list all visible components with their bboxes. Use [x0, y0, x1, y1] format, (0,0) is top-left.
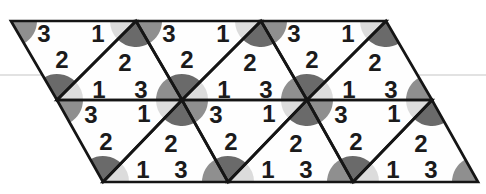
angle-2-label: 2 [55, 46, 68, 73]
angle-2-label: 2 [289, 130, 302, 157]
angle-2-label: 2 [414, 130, 427, 157]
angle-2-label: 2 [368, 49, 381, 76]
angle-2-label: 2 [118, 49, 131, 76]
triangle-tessellation-figure: 312312312213213213312312312213213213 [0, 0, 486, 194]
angle-3-label: 3 [334, 101, 347, 128]
angle-1-label: 1 [216, 20, 229, 47]
angle-1-label: 1 [136, 156, 149, 183]
angle-3-label: 3 [134, 76, 147, 103]
angle-2-label: 2 [180, 46, 193, 73]
angle-2-label: 2 [349, 128, 362, 155]
angle-1-label: 1 [387, 100, 400, 127]
angle-2-label: 2 [99, 128, 112, 155]
angle-2-label: 2 [164, 130, 177, 157]
angle-3-label: 3 [424, 156, 437, 183]
angle-3-label: 3 [174, 156, 187, 183]
angle-1-label: 1 [341, 20, 354, 47]
angle-2-label: 2 [224, 128, 237, 155]
angle-3-label: 3 [84, 101, 97, 128]
figure-svg: 312312312213213213312312312213213213 [0, 0, 486, 194]
angle-2-label: 2 [243, 49, 256, 76]
angle-3-label: 3 [259, 76, 272, 103]
angle-3-label: 3 [299, 156, 312, 183]
angle-1-label: 1 [92, 76, 105, 103]
angle-1-label: 1 [262, 100, 275, 127]
angle-3-label: 3 [209, 101, 222, 128]
angle-1-label: 1 [91, 20, 104, 47]
angle-3-label: 3 [37, 20, 50, 47]
angle-1-label: 1 [137, 100, 150, 127]
angle-1-label: 1 [342, 76, 355, 103]
angle-3-label: 3 [162, 20, 175, 47]
angle-1-label: 1 [386, 156, 399, 183]
angle-2-label: 2 [305, 46, 318, 73]
angle-3-label: 3 [287, 20, 300, 47]
angle-1-label: 1 [261, 156, 274, 183]
angle-1-label: 1 [217, 76, 230, 103]
angle-3-label: 3 [384, 76, 397, 103]
